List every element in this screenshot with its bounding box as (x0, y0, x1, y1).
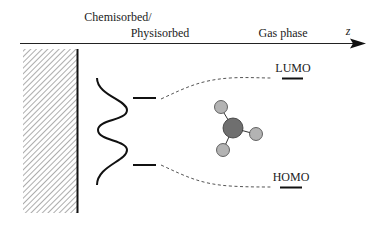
z-axis-label: z (345, 24, 351, 38)
adsorption-diagram: Chemisorbed/ Physisorbed Gas phase z LUM… (0, 0, 373, 226)
homo-correlation-dashed-line (161, 165, 271, 187)
broadened-density-of-states-curve (97, 78, 127, 185)
lumo-label: LUMO (275, 61, 311, 75)
chemisorbed-label: Chemisorbed/ (84, 10, 152, 24)
surface-hatched-region (23, 49, 77, 213)
homo-label: HOMO (273, 170, 310, 184)
outer-atom (215, 101, 228, 114)
outer-atom (217, 144, 230, 157)
outer-atom (250, 128, 263, 141)
molecule-icon (215, 101, 263, 157)
physisorbed-label: Physisorbed (131, 26, 190, 40)
lumo-correlation-dashed-line (161, 78, 271, 99)
central-atom (223, 118, 243, 138)
gas-phase-label: Gas phase (259, 26, 308, 40)
